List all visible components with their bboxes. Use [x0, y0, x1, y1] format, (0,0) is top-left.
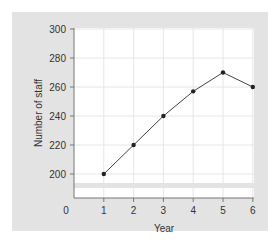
x-tick-label: 2: [131, 205, 137, 216]
data-point: [191, 89, 195, 93]
x-tick-label: 1: [101, 205, 107, 216]
y-tick-label: 280: [49, 53, 66, 64]
data-point: [161, 114, 165, 118]
y-tick-label: 200: [49, 169, 66, 180]
y-axis-ticks: 200220240260280300: [49, 24, 74, 180]
plot-area: [74, 28, 254, 198]
y-axis-title: Number of staff: [33, 79, 44, 147]
x-axis-ticks: 0123456: [63, 198, 256, 216]
y-tick-label: 260: [49, 82, 66, 93]
y-tick-label: 300: [49, 24, 66, 35]
data-point: [131, 143, 135, 147]
axis-break-band: [74, 183, 254, 188]
x-tick-label: 3: [161, 205, 167, 216]
y-tick-label: 240: [49, 111, 66, 122]
y-tick-label: 220: [49, 140, 66, 151]
x-axis-title: Year: [154, 223, 175, 234]
data-point: [221, 70, 225, 74]
x-tick-label: 0: [63, 205, 69, 216]
x-tick-label: 5: [220, 205, 226, 216]
data-point: [251, 85, 255, 89]
x-tick-label: 4: [190, 205, 196, 216]
line-chart: 200220240260280300 0123456 Year Number o…: [0, 0, 279, 250]
x-tick-label: 6: [250, 205, 256, 216]
data-point: [102, 172, 106, 176]
